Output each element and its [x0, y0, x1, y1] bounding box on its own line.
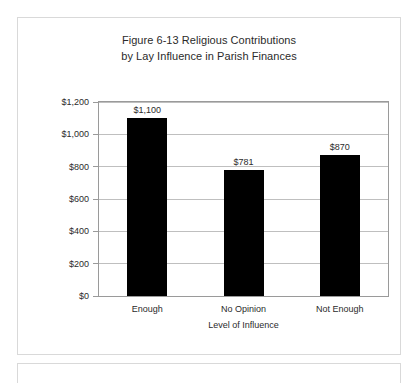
bar: $1,100 — [127, 118, 167, 296]
x-axis-category-label: Not Enough — [316, 304, 364, 314]
next-figure-card — [17, 363, 401, 383]
y-axis-tick — [93, 102, 98, 103]
bar-value-label: $1,100 — [133, 105, 161, 115]
y-gridline — [99, 102, 388, 103]
y-axis-tick-label: $0 — [79, 291, 89, 301]
x-axis-title: Level of Influence — [98, 320, 389, 330]
y-axis-tick — [93, 199, 98, 200]
x-axis-category-label: No Opinion — [221, 304, 266, 314]
y-axis-tick — [93, 134, 98, 135]
bar-value-label: $781 — [233, 157, 253, 167]
bar: $781 — [224, 170, 264, 296]
bar: $870 — [320, 155, 360, 296]
y-axis-tick-label: $800 — [69, 162, 89, 172]
y-axis-tick-label: $600 — [69, 194, 89, 204]
chart-title: Figure 6-13 Religious Contributions by L… — [18, 32, 400, 64]
y-axis-tick-label: $1,000 — [61, 129, 89, 139]
y-axis-tick — [93, 166, 98, 167]
plot-area: $0$200$400$600$800$1,000$1,200$1,100Enou… — [98, 101, 389, 297]
figure-card: Figure 6-13 Religious Contributions by L… — [17, 17, 401, 355]
chart-title-line-1: Figure 6-13 Religious Contributions — [18, 32, 400, 48]
y-axis-tick-label: $1,200 — [61, 97, 89, 107]
y-axis-tick — [93, 296, 98, 297]
y-axis-tick-label: $200 — [69, 259, 89, 269]
y-axis-tick-label: $400 — [69, 226, 89, 236]
y-axis-tick — [93, 263, 98, 264]
y-axis-tick — [93, 231, 98, 232]
x-axis-category-label: Enough — [132, 304, 163, 314]
bar-value-label: $870 — [330, 142, 350, 152]
chart-title-line-2: by Lay Influence in Parish Finances — [18, 48, 400, 64]
